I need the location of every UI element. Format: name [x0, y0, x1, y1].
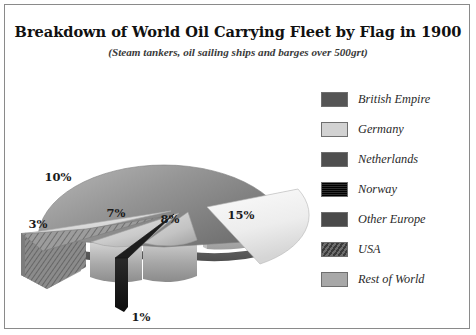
legend-label-netherlands: Netherlands	[358, 152, 418, 167]
chart-legend: British Empire Germany Netherlands Norwa…	[321, 85, 467, 295]
slice-label-norway: 1%	[132, 310, 151, 324]
pie-chart: 56% 15% 8% 7% 10% 3% 1%	[11, 71, 317, 327]
legend-swatch-usa	[321, 242, 348, 257]
legend-swatch-netherlands	[321, 152, 348, 167]
legend-item-british-empire[interactable]: British Empire	[321, 85, 467, 114]
slice-label-netherlands: 10%	[45, 170, 72, 184]
pie-chart-svg: 56% 15% 8% 7% 10% 3% 1%	[11, 71, 317, 327]
chart-frame: Breakdown of World Oil Carrying Fleet by…	[4, 4, 470, 329]
slice-side-norway	[115, 258, 128, 312]
legend-label-other-europe: Other Europe	[358, 212, 426, 227]
legend-item-norway[interactable]: Norway	[321, 175, 467, 204]
chart-subtitle: (Steam tankers, oil sailing ships and ba…	[5, 46, 471, 58]
slice-label-british-empire: 56%	[137, 106, 164, 120]
legend-label-british-empire: British Empire	[358, 92, 430, 107]
legend-item-netherlands[interactable]: Netherlands	[321, 145, 467, 174]
slice-label-rest-of-world: 8%	[161, 212, 180, 226]
legend-label-usa: USA	[358, 242, 381, 257]
legend-label-rest-of-world: Rest of World	[358, 272, 425, 287]
slice-label-germany: 15%	[228, 208, 255, 222]
legend-swatch-british-empire	[321, 92, 348, 107]
legend-swatch-germany	[321, 122, 348, 137]
legend-item-rest-of-world[interactable]: Rest of World	[321, 265, 467, 294]
slice-label-other-europe: 7%	[107, 206, 126, 220]
legend-label-germany: Germany	[358, 122, 404, 137]
legend-swatch-other-europe	[321, 212, 348, 227]
legend-item-usa[interactable]: USA	[321, 235, 467, 264]
legend-item-other-europe[interactable]: Other Europe	[321, 205, 467, 234]
legend-swatch-rest-of-world	[321, 272, 348, 287]
legend-item-germany[interactable]: Germany	[321, 115, 467, 144]
slice-label-usa: 3%	[29, 217, 48, 231]
legend-swatch-norway	[321, 182, 348, 197]
legend-label-norway: Norway	[358, 182, 397, 197]
chart-title: Breakdown of World Oil Carrying Fleet by…	[5, 23, 471, 40]
